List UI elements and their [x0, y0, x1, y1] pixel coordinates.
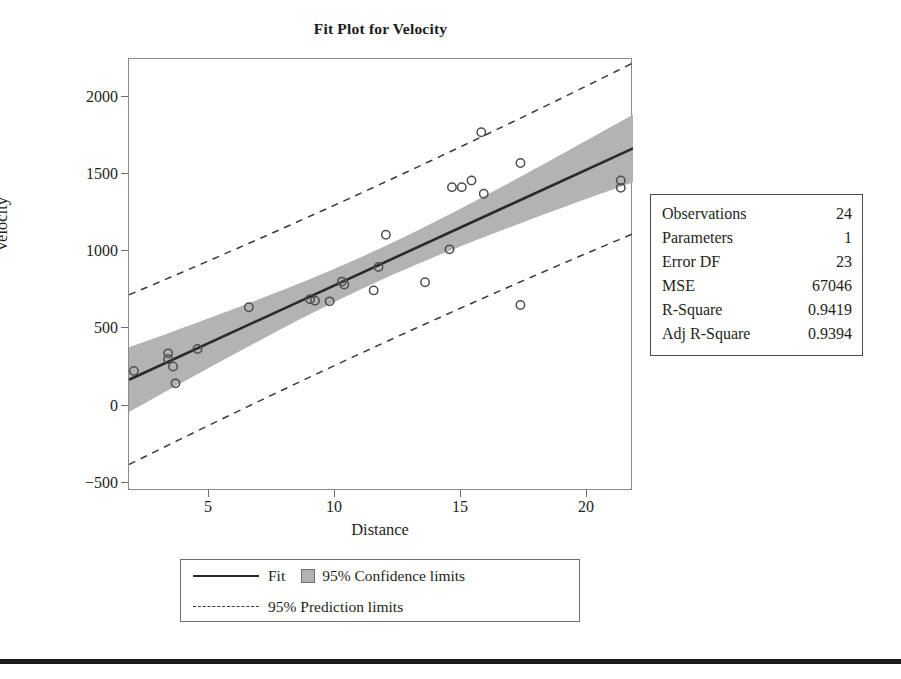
- prediction-line-icon: [193, 606, 259, 607]
- stats-label-mse: MSE: [662, 274, 695, 298]
- page-title: Fit Plot for Velocity: [128, 20, 633, 38]
- stats-row: R-Square 0.9419: [662, 298, 852, 322]
- data-point-marker: [516, 159, 524, 167]
- stats-row: Adj R-Square 0.9394: [662, 322, 852, 346]
- stats-value-error-df: 23: [836, 250, 852, 274]
- stats-value-r-square: 0.9419: [808, 298, 852, 322]
- chart-legend: Fit 95% Confidence limits 95% Prediction…: [180, 559, 580, 622]
- stats-label-error-df: Error DF: [662, 250, 720, 274]
- stats-row: Parameters 1: [662, 226, 852, 250]
- y-tick-label-minus500: −500: [38, 474, 118, 492]
- data-point-marker: [477, 128, 485, 136]
- stats-row: Error DF 23: [662, 250, 852, 274]
- stats-label-adj-r-square: Adj R-Square: [662, 322, 750, 346]
- x-axis-label: Distance: [128, 520, 632, 540]
- stats-row: MSE 67046: [662, 274, 852, 298]
- x-tick-label-20: 20: [556, 498, 616, 516]
- y-tick-mark-1500: [121, 173, 128, 174]
- stats-label-r-square: R-Square: [662, 298, 722, 322]
- y-tick-mark-0: [121, 405, 128, 406]
- legend-label-fit: Fit: [268, 567, 285, 585]
- data-point-marker: [421, 278, 429, 286]
- x-tick-mark-20: [586, 490, 587, 497]
- legend-row-fit-confidence: Fit 95% Confidence limits: [181, 560, 579, 591]
- data-point-marker: [516, 301, 524, 309]
- stats-value-adj-r-square: 0.9394: [808, 322, 852, 346]
- y-tick-mark-500: [121, 327, 128, 328]
- x-tick-mark-5: [208, 490, 209, 497]
- y-tick-mark-1000: [121, 250, 128, 251]
- x-tick-mark-10: [334, 490, 335, 497]
- x-tick-label-5: 5: [178, 498, 238, 516]
- stats-value-mse: 67046: [812, 274, 852, 298]
- data-point-marker: [458, 183, 466, 191]
- y-tick-mark-2000: [121, 96, 128, 97]
- data-point-marker: [448, 183, 456, 191]
- data-point-marker: [369, 286, 377, 294]
- x-tick-mark-15: [460, 490, 461, 497]
- y-tick-label-1500: 1500: [38, 165, 118, 183]
- stats-value-observations: 24: [836, 202, 852, 226]
- fit-plot-figure: Fit Plot for Velocity Velocity 2000 1500…: [0, 0, 901, 679]
- chart-plot-area: [128, 58, 632, 490]
- plot-canvas: [129, 59, 633, 491]
- y-tick-mark-minus500: [121, 482, 128, 483]
- stats-row: Observations 24: [662, 202, 852, 226]
- legend-label-confidence: 95% Confidence limits: [322, 567, 465, 585]
- y-tick-label-2000: 2000: [38, 88, 118, 106]
- y-tick-label-1000: 1000: [38, 242, 118, 260]
- y-axis-label: Velocity: [0, 197, 12, 252]
- y-tick-label-0: 0: [38, 397, 118, 415]
- confidence-band-swatch-icon: [301, 569, 315, 583]
- legend-label-prediction: 95% Prediction limits: [268, 598, 403, 616]
- x-tick-label-10: 10: [304, 498, 364, 516]
- data-point-marker: [467, 176, 475, 184]
- y-tick-label-500: 500: [38, 319, 118, 337]
- fit-line-icon: [193, 575, 259, 577]
- data-point-marker: [382, 231, 390, 239]
- stats-label-observations: Observations: [662, 202, 746, 226]
- x-tick-label-15: 15: [430, 498, 490, 516]
- stats-value-parameters: 1: [844, 226, 852, 250]
- stats-label-parameters: Parameters: [662, 226, 733, 250]
- footer-rule: [0, 659, 901, 664]
- fit-statistics-box: Observations 24 Parameters 1 Error DF 23…: [650, 194, 863, 356]
- legend-row-prediction: 95% Prediction limits: [181, 591, 579, 622]
